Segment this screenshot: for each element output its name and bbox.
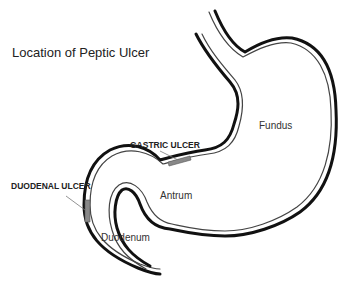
antrum-label: Antrum bbox=[160, 190, 192, 201]
greater-curvature-outer bbox=[115, 11, 336, 266]
duodenal-ulcer-label: DUODENAL ULCER bbox=[11, 181, 91, 191]
duodenal-ulcer-pointer bbox=[66, 196, 85, 210]
gastric-ulcer-label: GASTRIC ULCER bbox=[130, 140, 200, 150]
duodenum-label: Duodenum bbox=[101, 232, 150, 243]
fundus-label: Fundus bbox=[259, 120, 292, 131]
duodenal-ulcer-mark bbox=[85, 200, 90, 222]
